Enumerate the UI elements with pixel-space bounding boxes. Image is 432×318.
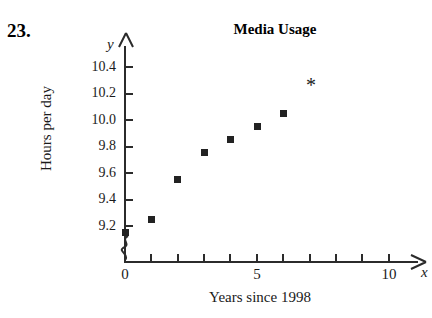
- asterisk-annotation: *: [306, 75, 316, 95]
- data-point-1: [148, 216, 155, 223]
- x-tick-1: [150, 254, 152, 262]
- x-tick-9: [361, 254, 363, 262]
- y-tick-9.8: [126, 146, 133, 148]
- y-tick-label-10.2: 10.2: [70, 86, 116, 100]
- y-tick-label-9.2: 9.2: [70, 219, 116, 233]
- x-tick-4: [229, 254, 231, 262]
- y-axis-variable: y: [107, 36, 114, 53]
- x-tick-3: [203, 254, 205, 262]
- y-tick-9.2: [126, 225, 133, 227]
- y-tick-9.6: [126, 172, 133, 174]
- x-tick-5: [256, 254, 258, 262]
- data-point-6: [280, 110, 287, 117]
- exercise-figure: 23. Media Usage y x 10.4 10.2 10.0 9: [0, 0, 432, 318]
- y-tick-label-9.6: 9.6: [70, 166, 116, 180]
- x-tick-label-10: 10: [369, 266, 409, 282]
- y-tick-10.0: [126, 119, 133, 121]
- y-tick-label-10.0: 10.0: [70, 113, 116, 127]
- x-tick-0: [124, 254, 126, 262]
- y-tick-10.2: [126, 93, 133, 95]
- x-axis-title: Years since 1998: [150, 289, 370, 306]
- data-point-5: [254, 123, 261, 130]
- x-tick-8: [335, 254, 337, 262]
- x-tick-2: [177, 254, 179, 262]
- scatter-plot: y x 10.4 10.2 10.0 9.8 9.6 9.4 9.2 0 5 1…: [0, 0, 432, 318]
- y-tick-9.4: [126, 199, 133, 201]
- data-point-2: [174, 176, 181, 183]
- y-tick-label-9.4: 9.4: [70, 192, 116, 206]
- x-tick-7: [309, 254, 311, 262]
- y-axis-arrowhead: [117, 32, 135, 52]
- x-axis-line: [124, 261, 418, 263]
- x-axis-variable: x: [421, 264, 428, 281]
- data-point-3: [201, 149, 208, 156]
- x-tick-10: [388, 254, 390, 262]
- data-point-0: [122, 229, 129, 236]
- data-point-4: [227, 136, 234, 143]
- x-tick-6: [282, 254, 284, 262]
- y-tick-label-9.8: 9.8: [70, 139, 116, 153]
- y-tick-10.4: [126, 66, 133, 68]
- y-axis-title: Hours per day: [38, 59, 55, 199]
- x-tick-label-0: 0: [105, 266, 145, 282]
- y-tick-label-10.4: 10.4: [70, 60, 116, 74]
- x-tick-label-5: 5: [237, 266, 277, 282]
- y-axis-break-icon: [118, 236, 134, 260]
